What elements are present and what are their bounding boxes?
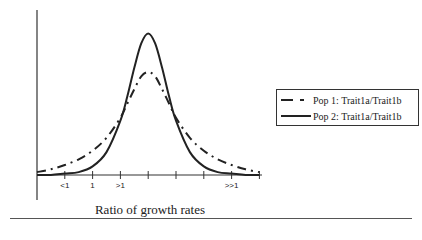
- legend: Pop 1: Trait1a/Trait1b Pop 2: Trait1a/Tr…: [276, 89, 419, 126]
- solid-line-icon: [281, 113, 311, 119]
- legend-label: Pop 2: Trait1a/Trait1b: [313, 111, 402, 122]
- dash-dot-line-icon: [281, 97, 311, 103]
- x-tick-label: >1: [116, 181, 125, 190]
- y-axis-label: Frequency: [0, 112, 43, 132]
- x-axis-label: Ratio of growth rates: [40, 202, 260, 218]
- x-tick-label: <1: [60, 181, 69, 190]
- legend-label: Pop 1: Trait1a/Trait1b: [313, 95, 402, 106]
- legend-item-pop2: Pop 2: Trait1a/Trait1b: [277, 108, 402, 124]
- x-tick-label: >>1: [225, 181, 239, 190]
- x-tick-label: 1: [90, 181, 94, 190]
- bottom-rule: [10, 218, 412, 219]
- series-pop1-dashdot: [37, 72, 259, 172]
- series-pop2-solid: [37, 33, 259, 175]
- legend-item-pop1: Pop 1: Trait1a/Trait1b: [277, 92, 402, 108]
